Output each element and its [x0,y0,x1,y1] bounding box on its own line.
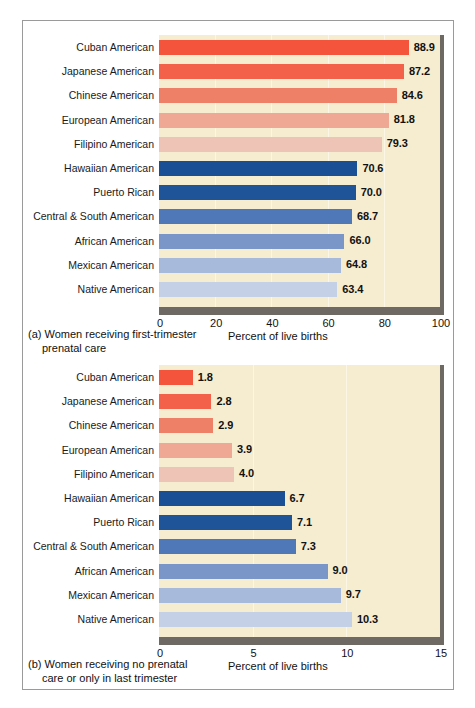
bar-row: 3.9 [159,443,440,458]
bar-value-label: 7.1 [297,515,312,530]
bar [159,539,296,554]
category-label: Puerto Rican [93,185,154,200]
bar-row: 9.0 [159,564,440,579]
bar [159,418,213,433]
bar [159,209,352,224]
bar-value-label: 3.9 [237,442,252,457]
bars-b: 1.82.82.93.94.06.77.17.39.09.710.3 [159,365,440,637]
category-label: African American [75,234,154,249]
category-label: Cuban American [76,40,154,55]
x-tick-label: 10 [341,647,353,659]
bar [159,258,341,273]
plot-area-b: 1.82.82.93.94.06.77.17.39.09.710.3 [159,365,440,637]
bar-row: 70.0 [159,185,440,200]
category-label: Central & South American [33,209,154,224]
bar-row: 87.2 [159,64,440,79]
bar-value-label: 66.0 [349,233,370,248]
bar [159,64,404,79]
bar-value-label: 87.2 [409,64,430,79]
bar-value-label: 2.9 [218,418,233,433]
x-tick-label: 15 [435,647,447,659]
bar [159,443,232,458]
x-axis-title-b: Percent of live births [228,660,328,672]
category-label: European American [62,113,154,128]
category-label: Native American [78,282,154,297]
bar-row: 10.3 [159,612,440,627]
caption-b: (b) Women receiving no prenatal care or … [28,657,187,685]
x-axis-line-b [159,641,444,645]
bar [159,282,337,297]
caption-a-line1: (a) Women receiving first-trimester [28,328,197,340]
x-axis-line-a [159,311,444,315]
category-label: Mexican American [68,258,154,273]
bar-row: 7.3 [159,539,440,554]
category-label: Chinese American [69,88,154,103]
bar-value-label: 10.3 [357,612,378,627]
bar [159,40,409,55]
category-label: European American [62,443,154,458]
bar-value-label: 9.0 [333,563,348,578]
bar [159,370,193,385]
bar-row: 4.0 [159,467,440,482]
bar [159,467,234,482]
bar-value-label: 88.9 [414,40,435,55]
category-label: Hawaiian American [64,161,154,176]
x-axis-title-a: Percent of live births [228,330,328,342]
bar-row: 64.8 [159,258,440,273]
bar-row: 84.6 [159,88,440,103]
chart-panel-b: Cuban AmericanJapanese AmericanChinese A… [23,351,455,685]
bar-row: 2.9 [159,418,440,433]
bar-value-label: 81.8 [394,112,415,127]
bar [159,137,382,152]
category-label: Japanese American [62,394,154,409]
category-label: Filipino American [74,467,154,482]
x-tick-label: 100 [432,317,450,329]
bar-row: 7.1 [159,515,440,530]
bar-value-label: 79.3 [387,136,408,151]
bar-value-label: 68.7 [357,209,378,224]
bar-row: 81.8 [159,113,440,128]
category-label: Japanese American [62,64,154,79]
category-label: Mexican American [68,588,154,603]
bar-value-label: 63.4 [342,282,363,297]
x-tick-label: 40 [266,317,278,329]
plot-area-a: 88.987.284.681.879.370.670.068.766.064.8… [159,35,440,307]
bar-row: 70.6 [159,161,440,176]
bar-value-label: 4.0 [239,466,254,481]
bar-row: 2.8 [159,394,440,409]
category-label: Chinese American [69,418,154,433]
caption-b-line1: (b) Women receiving no prenatal [28,658,187,670]
bar [159,394,211,409]
bar-row: 66.0 [159,234,440,249]
category-label: Hawaiian American [64,491,154,506]
bar-row: 6.7 [159,491,440,506]
bar-value-label: 7.3 [301,539,316,554]
bar-value-label: 64.8 [346,257,367,272]
bar-value-label: 6.7 [290,491,305,506]
bar [159,612,352,627]
bar [159,515,292,530]
bars-a: 88.987.284.681.879.370.670.068.766.064.8… [159,35,440,307]
bar [159,161,357,176]
category-label: Cuban American [76,370,154,385]
x-tick-label: 60 [322,317,334,329]
x-tick-label: 80 [379,317,391,329]
bar [159,588,341,603]
bar-value-label: 1.8 [198,370,213,385]
category-label: Native American [78,612,154,627]
bar-value-label: 2.8 [216,394,231,409]
bar-row: 88.9 [159,40,440,55]
bar [159,564,328,579]
bar-value-label: 70.0 [361,185,382,200]
bar [159,88,397,103]
figure-container: Cuban AmericanJapanese AmericanChinese A… [22,20,454,690]
category-label: Central & South American [33,539,154,554]
bar-row: 1.8 [159,370,440,385]
bar-row: 9.7 [159,588,440,603]
bar-value-label: 84.6 [402,88,423,103]
category-label: Puerto Rican [93,515,154,530]
bar [159,491,285,506]
bar-value-label: 9.7 [346,587,361,602]
bar-row: 68.7 [159,209,440,224]
x-tick-label: 5 [251,647,257,659]
